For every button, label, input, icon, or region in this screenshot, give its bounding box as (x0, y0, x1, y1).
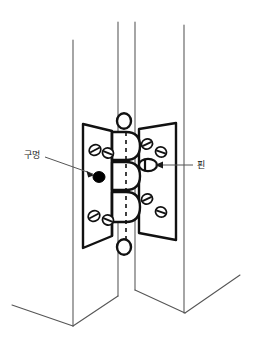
hinge-hole (93, 172, 105, 183)
left-hinge-leaf (83, 124, 112, 248)
hole-label: 구멍 (24, 150, 40, 160)
pin-label: 핀 (197, 160, 205, 170)
figure-canvas: 구멍 핀 (0, 0, 256, 348)
hinge-pin (139, 159, 157, 171)
hinge-knuckles (112, 132, 140, 222)
hinge-pin-cap-top (117, 113, 131, 129)
hinge-diagram: 구멍 핀 (0, 0, 256, 348)
hinge-pin-cap-bottom (117, 239, 131, 255)
knuckle-1 (112, 132, 140, 160)
